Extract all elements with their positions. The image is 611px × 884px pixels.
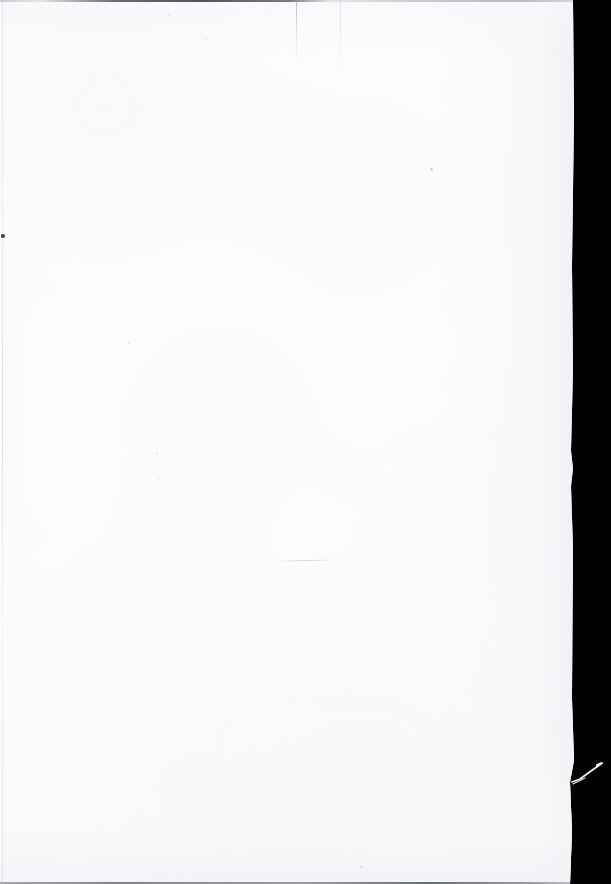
speck-upper-mid (205, 38, 207, 40)
page-sheet (0, 0, 580, 884)
speck-upper-right (430, 168, 433, 171)
paper-shading-vertical (0, 0, 580, 884)
speck-mid-b (157, 476, 159, 479)
top-edge-line (0, 0, 573, 2)
speck-bottom-a (410, 828, 412, 830)
speck-bottom-b (360, 866, 363, 868)
left-edge-line (2, 0, 3, 884)
speck-mid-left (128, 341, 130, 345)
paper-texture (0, 0, 580, 884)
scan-streak-b (340, 0, 341, 96)
scan-streak-a (296, 0, 297, 66)
speck-lower-mid (292, 600, 294, 602)
speck-mid-a (156, 452, 158, 455)
paper-shading-horizontal (0, 0, 580, 884)
scanned-page-canvas (0, 0, 611, 884)
speck-top-a (168, 14, 170, 16)
speck-left-edge (1, 234, 5, 238)
fiber-hairline (280, 559, 336, 561)
